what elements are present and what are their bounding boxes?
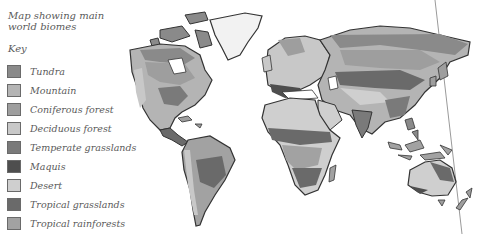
coniferous-forest-swatch — [7, 103, 21, 116]
arctic-islands — [150, 12, 212, 48]
legend: Tundra Mountain Coniferous forest Decidu… — [7, 62, 136, 233]
legend-label: Temperate grasslands — [30, 142, 136, 153]
legend-label: Desert — [30, 180, 62, 191]
legend-item-mountain: Mountain — [7, 81, 136, 100]
map-title-line-1: Map showing main — [8, 10, 118, 21]
mountain-swatch — [7, 84, 21, 97]
legend-label: Tundra — [30, 66, 65, 77]
legend-item-tropical-rainforests: Tropical rainforests — [7, 214, 136, 233]
greenland — [210, 13, 262, 60]
deciduous-forest-swatch — [7, 122, 21, 135]
legend-item-desert: Desert — [7, 176, 136, 195]
maquis-swatch — [7, 160, 21, 173]
central-america — [160, 128, 188, 146]
key-heading: Key — [8, 43, 27, 54]
legend-label: Deciduous forest — [30, 123, 112, 134]
tundra-swatch — [7, 65, 21, 78]
map-title-line-2: world biomes — [8, 21, 118, 32]
legend-label: Maquis — [30, 161, 66, 172]
map-title: Map showing main world biomes — [8, 10, 118, 32]
tropical-rainforests-swatch — [7, 217, 21, 230]
tropical-grasslands-swatch — [7, 198, 21, 211]
legend-item-deciduous-forest: Deciduous forest — [7, 119, 136, 138]
legend-item-tundra: Tundra — [7, 62, 136, 81]
indonesia — [388, 140, 452, 160]
legend-item-temperate-grasslands: Temperate grasslands — [7, 138, 136, 157]
temperate-grasslands-swatch — [7, 141, 21, 154]
legend-label: Mountain — [30, 85, 76, 96]
legend-item-coniferous-forest: Coniferous forest — [7, 100, 136, 119]
legend-item-maquis: Maquis — [7, 157, 136, 176]
legend-label: Tropical rainforests — [30, 218, 125, 229]
legend-item-tropical-grasslands: Tropical grasslands — [7, 195, 136, 214]
legend-label: Tropical grasslands — [30, 199, 125, 210]
legend-label: Coniferous forest — [30, 104, 114, 115]
desert-swatch — [7, 179, 21, 192]
